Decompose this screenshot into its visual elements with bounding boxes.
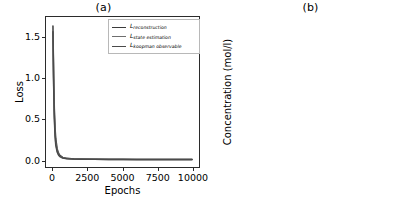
figure-container: (a) Loss Epochs LreconstructionLstate es… [0, 0, 414, 210]
x-tick-label: 10000 [178, 172, 208, 183]
x-tickmark [193, 168, 194, 171]
legend-swatch [112, 27, 126, 28]
y-tickmark [42, 161, 45, 162]
x-tickmark [123, 168, 124, 171]
x-tick-label: 7500 [146, 172, 170, 183]
y-tick-label: 1.0 [25, 72, 40, 83]
panel-a-title: (a) [0, 1, 207, 14]
y-tick-label: 0.5 [25, 113, 40, 124]
panel-a-legend: LreconstructionLstate estimationLkoopman… [108, 19, 200, 54]
legend-swatch [112, 46, 126, 47]
panel-b-ylabel: Concentration (mol/l) [222, 39, 233, 146]
x-tickmark [52, 168, 53, 171]
panel-b: (b) Concentration (mol/l) Time (s) CA pr… [207, 0, 414, 210]
x-tickmark [87, 168, 88, 171]
panel-a: (a) Loss Epochs LreconstructionLstate es… [0, 0, 207, 210]
legend-item: Lkoopman observable [112, 42, 196, 51]
y-tickmark [42, 119, 45, 120]
panel-b-title: (b) [207, 1, 414, 14]
panel-a-xlabel: Epochs [105, 185, 141, 196]
legend-label: Lkoopman observable [130, 42, 182, 49]
x-tick-label: 5000 [110, 172, 134, 183]
legend-swatch [112, 36, 126, 37]
legend-label: Lstate estimation [130, 33, 171, 40]
legend-item: Lstate estimation [112, 32, 196, 41]
y-tick-label: 0.0 [25, 155, 40, 166]
x-tick-label: 2500 [75, 172, 99, 183]
panel-a-ylabel: Loss [14, 81, 25, 103]
x-tick-label: 0 [49, 172, 55, 183]
y-tickmark [42, 78, 45, 79]
x-tickmark [158, 168, 159, 171]
legend-label: Lreconstruction [130, 23, 167, 30]
y-tick-label: 1.5 [25, 31, 40, 42]
legend-item: Lreconstruction [112, 23, 196, 32]
y-tickmark [42, 37, 45, 38]
